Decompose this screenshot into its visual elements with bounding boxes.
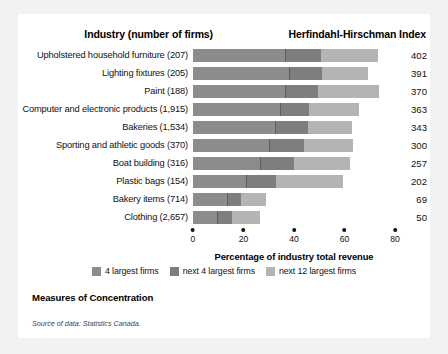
row-label: Lighting fixtures (205) xyxy=(18,68,193,78)
row-label: Bakeries (1,534) xyxy=(18,122,193,132)
chart-page: Industry (number of firms) Herfindahl-Hi… xyxy=(0,0,448,354)
chart-row: Computer and electronic products (1,915)… xyxy=(18,100,430,118)
row-label: Upholstered household furniture (207) xyxy=(18,50,193,60)
row-label: Plastic bags (154) xyxy=(18,176,193,186)
column-header-hhi: Herfindahl-Hirschman Index xyxy=(233,28,430,40)
legend-item: next 4 largest firms xyxy=(170,266,255,276)
bar-area xyxy=(193,67,395,80)
hhi-value: 363 xyxy=(395,104,430,115)
row-label: Sporting and athletic goods (370) xyxy=(18,140,193,150)
hhi-value: 257 xyxy=(395,158,430,169)
bar-segment xyxy=(193,139,269,152)
bar-segment xyxy=(289,67,322,80)
tick-dot-icon xyxy=(191,228,195,232)
x-axis-tick-label: 80 xyxy=(390,234,400,244)
hhi-value: 370 xyxy=(395,86,430,97)
chart-row: Bakery items (714)69 xyxy=(18,190,430,208)
legend-label: next 12 largest firms xyxy=(279,266,356,276)
hhi-value: 202 xyxy=(395,176,430,187)
bar-segment xyxy=(285,49,320,62)
x-axis-tick-label: 40 xyxy=(289,234,299,244)
bar-segment xyxy=(321,49,379,62)
tick-dot-icon xyxy=(393,228,397,232)
bar-segment xyxy=(322,67,369,80)
stacked-bar xyxy=(193,67,368,80)
chart-row: Paint (188)370 xyxy=(18,82,430,100)
bar-segment xyxy=(193,67,289,80)
stacked-bar xyxy=(193,85,379,98)
chart-row: Plastic bags (154)202 xyxy=(18,172,430,190)
bar-area xyxy=(193,211,395,224)
x-axis-tick: 60 xyxy=(340,228,350,244)
bar-segment xyxy=(193,193,227,206)
bar-segment xyxy=(304,139,352,152)
legend-label: next 4 largest firms xyxy=(183,266,255,276)
bar-segment xyxy=(193,157,260,170)
chart-row: Boat building (316)257 xyxy=(18,154,430,172)
bar-area xyxy=(193,157,395,170)
x-axis-tick: 20 xyxy=(239,228,249,244)
legend-label: 4 largest firms xyxy=(105,266,159,276)
legend-item: next 12 largest firms xyxy=(266,266,356,276)
x-axis-tick: 80 xyxy=(390,228,400,244)
stacked-bar xyxy=(193,121,352,134)
hhi-value: 69 xyxy=(395,194,430,205)
legend-item: 4 largest firms xyxy=(92,266,159,276)
x-axis-tick-label: 60 xyxy=(340,234,350,244)
stacked-bar xyxy=(193,175,343,188)
hhi-value: 50 xyxy=(395,212,430,223)
bar-area xyxy=(193,85,395,98)
bar-segment xyxy=(308,121,352,134)
x-axis-title: Percentage of industry total revenue xyxy=(193,251,395,262)
x-axis-tick-label: 0 xyxy=(191,234,196,244)
legend-swatch xyxy=(92,267,101,276)
column-header-industry: Industry (number of firms) xyxy=(18,28,213,40)
chart-legend: 4 largest firmsnext 4 largest firmsnext … xyxy=(18,266,430,276)
hhi-value: 300 xyxy=(395,140,430,151)
row-label: Clothing (2,657) xyxy=(18,212,193,222)
bar-segment xyxy=(232,211,260,224)
bar-area xyxy=(193,49,395,62)
bar-segment xyxy=(241,193,267,206)
stacked-bar xyxy=(193,211,260,224)
bar-area xyxy=(193,103,395,116)
bar-area xyxy=(193,193,395,206)
x-axis-tick-label: 20 xyxy=(239,234,249,244)
bar-segment xyxy=(260,157,294,170)
chart-card: Industry (number of firms) Herfindahl-Hi… xyxy=(18,14,430,338)
row-label: Boat building (316) xyxy=(18,158,193,168)
tick-dot-icon xyxy=(292,228,296,232)
bar-area xyxy=(193,121,395,134)
chart-row: Clothing (2,657)50 xyxy=(18,208,430,226)
x-axis-tick: 0 xyxy=(191,228,196,244)
bar-segment xyxy=(217,211,232,224)
stacked-bar xyxy=(193,139,353,152)
bar-segment xyxy=(285,85,318,98)
bar-segment xyxy=(246,175,276,188)
bar-segment xyxy=(276,175,343,188)
stacked-bar xyxy=(193,157,350,170)
row-label: Computer and electronic products (1,915) xyxy=(18,104,193,114)
bar-segment xyxy=(193,175,246,188)
legend-swatch xyxy=(170,267,179,276)
legend-swatch xyxy=(266,267,275,276)
bar-segment xyxy=(294,157,350,170)
bar-segment xyxy=(269,139,304,152)
bar-segment xyxy=(280,103,309,116)
bar-segment xyxy=(193,49,285,62)
chart-row: Sporting and athletic goods (370)300 xyxy=(18,136,430,154)
bar-segment xyxy=(227,193,241,206)
x-axis-tick: 40 xyxy=(289,228,299,244)
chart-caption: Measures of Concentration xyxy=(32,292,153,303)
bar-segment xyxy=(193,211,217,224)
bar-segment xyxy=(193,121,275,134)
source-note: Source of data: Statistics Canada. xyxy=(32,319,141,328)
hhi-value: 402 xyxy=(395,50,430,61)
bar-segment xyxy=(318,85,379,98)
stacked-bar xyxy=(193,193,266,206)
bar-segment xyxy=(275,121,308,134)
tick-dot-icon xyxy=(343,228,347,232)
chart-rows: Upholstered household furniture (207)402… xyxy=(18,46,430,226)
row-label: Paint (188) xyxy=(18,86,193,96)
chart-row: Upholstered household furniture (207)402 xyxy=(18,46,430,64)
